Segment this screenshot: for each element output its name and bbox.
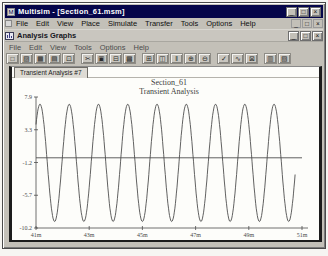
analysis-maximize-button[interactable]: □	[300, 31, 311, 41]
main-menu: FileEditViewPlaceSimulateTransferToolsOp…	[12, 19, 260, 28]
menu-item-tools[interactable]: Tools	[177, 19, 203, 28]
analysis-graphs-icon	[5, 32, 14, 40]
window-title: Multisim - [Section_61.msm]	[18, 7, 125, 16]
document-icon	[5, 20, 12, 27]
menu-item-file[interactable]: File	[12, 19, 32, 28]
x-tick-label: 41m	[31, 232, 42, 238]
show-cursors-button[interactable]: ‖	[170, 53, 183, 64]
main-menu-bar: FileEditViewPlaceSimulateTransferToolsOp…	[5, 18, 323, 30]
zoom-in-button[interactable]: ⊕	[184, 53, 197, 64]
tab-transient-analysis[interactable]: Transient Analysis #7	[14, 67, 88, 78]
y-tick-label: -10.2	[20, 225, 33, 231]
menu-item-tools[interactable]: Tools	[70, 43, 96, 52]
print-preview-button[interactable]: ⊡	[62, 53, 75, 64]
menu-item-edit[interactable]: Edit	[25, 43, 46, 52]
copy-button[interactable]: ▣	[95, 53, 108, 64]
menu-item-help[interactable]: Help	[236, 19, 259, 28]
toggle-legend-button[interactable]: ◫	[156, 53, 169, 64]
graph-tab-strip: Transient Analysis #7	[12, 67, 319, 78]
doc-close-button[interactable]: ×	[313, 19, 323, 28]
x-tick-label: 47m	[190, 232, 201, 238]
y-tick-label: 7.9	[25, 94, 33, 100]
toolbar-separator	[137, 53, 141, 64]
analysis-close-button[interactable]: ×	[312, 31, 323, 41]
menu-item-place[interactable]: Place	[77, 19, 104, 28]
doc-minimize-button[interactable]: _	[291, 19, 301, 28]
properties-button[interactable]: ▩	[123, 53, 136, 64]
menu-item-help[interactable]: Help	[130, 43, 153, 52]
x-tick-label: 51m	[297, 232, 308, 238]
chart-title: Section_61	[151, 79, 187, 87]
transient-analysis-chart: Section_61Transient Analysis7.93.3-1.2-5…	[12, 79, 319, 242]
toggle-grid-button[interactable]: ⊞	[142, 53, 155, 64]
doc-maximize-button[interactable]: □	[302, 19, 312, 28]
chart-subtitle: Transient Analysis	[139, 87, 199, 96]
menu-item-simulate[interactable]: Simulate	[104, 19, 141, 28]
toolbar-separator	[259, 53, 263, 64]
print-button[interactable]: ▤	[48, 53, 61, 64]
y-tick-label: 3.3	[25, 127, 33, 133]
analysis-menu-bar: FileEditViewToolsOptionsHelp	[5, 42, 323, 52]
multisim-window: M Multisim - [Section_61.msm] _□× FileEd…	[2, 2, 326, 249]
cut-button[interactable]: ✂	[81, 53, 94, 64]
analysis-graphs-title: Analysis Graphs	[17, 31, 76, 40]
menu-item-transfer[interactable]: Transfer	[141, 19, 177, 28]
new-button[interactable]: □	[6, 53, 19, 64]
menu-item-view[interactable]: View	[53, 19, 77, 28]
app-close-button[interactable]: ×	[310, 7, 321, 17]
analysis-graphs-title-bar: Analysis Graphs _□×	[5, 30, 323, 42]
y-tick-label: -1.2	[23, 160, 33, 166]
analysis-menu: FileEditViewToolsOptionsHelp	[5, 43, 153, 52]
toolbar-separator	[76, 53, 80, 64]
y-tick-label: -5.7	[23, 192, 33, 198]
menu-item-edit[interactable]: Edit	[32, 19, 53, 28]
menu-item-file[interactable]: File	[5, 43, 25, 52]
save-button[interactable]: ▦	[34, 53, 47, 64]
title-bar-buttons: _□×	[286, 7, 321, 17]
title-bar: M Multisim - [Section_61.msm] _□×	[5, 5, 323, 18]
export-data-button[interactable]: ▧	[278, 53, 291, 64]
open-button[interactable]: ▨	[20, 53, 33, 64]
analysis-toolbar: □▨▦▤⊡✂▣⊟▩⊞◫‖⊕⊖✓∿⊠▥▧	[6, 52, 323, 65]
analysis-minimize-button[interactable]: _	[288, 31, 299, 41]
x-tick-label: 45m	[137, 232, 148, 238]
axes-settings-button[interactable]: ⊠	[245, 53, 258, 64]
document-window-buttons: _□×	[291, 19, 323, 28]
analysis-ok-button[interactable]: ✓	[217, 53, 230, 64]
trace-style-button[interactable]: ∿	[231, 53, 244, 64]
toolbar-separator	[212, 53, 216, 64]
page-setup-button[interactable]: ▥	[264, 53, 277, 64]
analysis-window-buttons: _□×	[288, 31, 323, 41]
app-maximize-button[interactable]: □	[298, 7, 309, 17]
paste-button[interactable]: ⊟	[109, 53, 122, 64]
menu-item-options[interactable]: Options	[202, 19, 236, 28]
multisim-app-icon: M	[7, 8, 15, 16]
zoom-out-button[interactable]: ⊖	[198, 53, 211, 64]
app-minimize-button[interactable]: _	[286, 7, 297, 17]
menu-item-options[interactable]: Options	[96, 43, 130, 52]
graph-panel: Transient Analysis #7 Section_61Transien…	[9, 66, 322, 242]
menu-item-view[interactable]: View	[46, 43, 70, 52]
x-tick-label: 43m	[84, 232, 95, 238]
trace-output-sine	[36, 104, 295, 221]
x-tick-label: 49m	[243, 232, 254, 238]
